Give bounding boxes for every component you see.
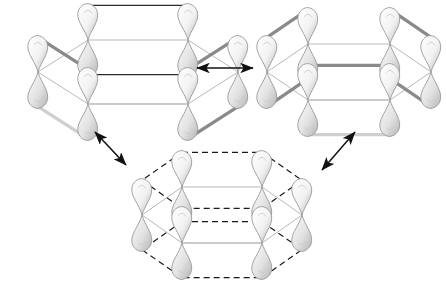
delocalized-structure-bottom <box>132 151 312 280</box>
p-orbital-upper-lobe <box>172 151 192 187</box>
p-orbital-lower-lobe <box>28 72 48 108</box>
p-orbital-upper-lobe <box>252 151 272 187</box>
p-orbital-upper-lobe <box>380 8 400 44</box>
p-orbital-upper-lobe <box>132 179 152 215</box>
delocalized-ring-bottom <box>142 222 302 278</box>
resonance-arrow-right-diagonal <box>322 132 355 170</box>
p-orbital-lower-lobe <box>228 72 248 108</box>
p-orbital <box>132 179 152 252</box>
delocalized-ring-top <box>142 152 302 208</box>
p-orbital-lower-lobe <box>257 72 277 108</box>
p-orbital <box>228 36 248 109</box>
figure-canvas <box>0 0 446 283</box>
p-orbital-upper-lobe <box>252 207 272 243</box>
p-orbital-lower-lobe <box>132 215 152 251</box>
p-orbital-lower-lobe <box>252 243 272 279</box>
sigma-ring-hexagon <box>142 187 302 243</box>
resonance-arrow-left-diagonal <box>95 132 126 165</box>
p-orbital <box>28 36 48 109</box>
p-orbital <box>257 36 277 109</box>
p-orbital-upper-lobe <box>178 4 198 40</box>
p-orbital-upper-lobe <box>257 36 277 72</box>
p-orbital-upper-lobe <box>298 8 318 44</box>
p-orbital-upper-lobe <box>178 68 198 104</box>
p-orbital-upper-lobe <box>380 64 400 100</box>
p-orbital-lower-lobe <box>178 104 198 140</box>
p-orbital-lower-lobe <box>298 100 318 136</box>
kekule-structure-left <box>28 4 248 141</box>
p-orbital-upper-lobe <box>78 4 98 40</box>
p-orbital-lower-lobe <box>380 100 400 136</box>
p-orbital-upper-lobe <box>228 36 248 72</box>
p-orbital-lower-lobe <box>78 104 98 140</box>
kekule-structure-right <box>257 8 441 137</box>
p-orbital <box>421 36 441 109</box>
p-orbital-upper-lobe <box>78 68 98 104</box>
p-orbital-upper-lobe <box>28 36 48 72</box>
p-orbital <box>292 179 312 252</box>
resonance-diagram <box>0 0 446 283</box>
sigma-ring-hexagon <box>38 40 238 104</box>
p-orbital-lower-lobe <box>172 243 192 279</box>
